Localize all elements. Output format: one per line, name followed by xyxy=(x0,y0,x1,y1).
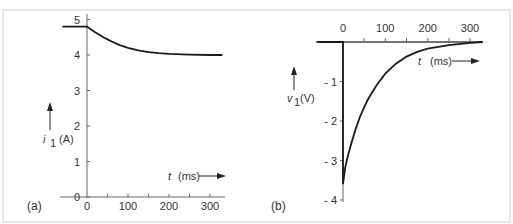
chart-a: 0 1 2 3 4 5 0 100 200 300 xyxy=(27,14,226,214)
chart-a-y-tick-2: 2 xyxy=(74,120,80,132)
chart-a-x-tick-100: 100 xyxy=(119,200,137,212)
chart-a-y-label-unit: (A) xyxy=(59,133,74,145)
chart-b-curve-v1 xyxy=(318,42,483,184)
chart-b-y-arrowhead-icon xyxy=(291,66,297,75)
chart-b-x-tick-100: 100 xyxy=(376,22,394,34)
chart-b-x-label-unit: (ms) xyxy=(430,55,452,67)
figure: 0 1 2 3 4 5 0 100 200 300 xyxy=(0,0,513,224)
chart-a-y-tick-5: 5 xyxy=(74,14,80,26)
chart-a-x-tick-200: 200 xyxy=(160,200,178,212)
chart-b-x-arrowhead-icon xyxy=(471,58,480,64)
chart-a-y-tick-4: 4 xyxy=(74,49,80,61)
chart-a-x-tick-300: 300 xyxy=(201,200,219,212)
chart-b-x-label-symbol: t xyxy=(418,55,422,67)
chart-b-y-label-symbol: v xyxy=(287,92,294,104)
chart-a-y-arrowhead-icon xyxy=(47,102,53,111)
chart-a-curve-i1 xyxy=(62,27,222,55)
chart-a-x-label-unit: (ms) xyxy=(178,170,200,182)
chart-b-x-tick-0: 0 xyxy=(340,22,346,34)
chart-b-y-tick-neg2: - 2 xyxy=(324,115,337,127)
chart-a-x-arrowhead-icon xyxy=(217,173,226,179)
chart-a-y-tick-3: 3 xyxy=(74,85,80,97)
chart-a-y-label-subscript: 1 xyxy=(50,137,56,149)
chart-a-y-label-symbol: i xyxy=(43,133,46,145)
chart-a-panel-label: (a) xyxy=(27,199,42,213)
chart-b-y-tick-neg4: - 4 xyxy=(324,194,337,206)
chart-a-y-tick-0: 0 xyxy=(74,191,80,203)
chart-a-x-label-symbol: t xyxy=(168,170,172,182)
chart-a-y-tick-1: 1 xyxy=(74,156,80,168)
chart-b-x-tick-200: 200 xyxy=(419,22,437,34)
chart-b: 0 100 200 300 - 1 - 2 - 3 - 4 v 1 (V) xyxy=(271,22,483,213)
chart-a-x-tick-0: 0 xyxy=(84,200,90,212)
chart-b-y-label-unit: (V) xyxy=(300,92,315,104)
chart-b-panel-label: (b) xyxy=(271,199,286,213)
figure-svg: 0 1 2 3 4 5 0 100 200 300 xyxy=(0,0,513,224)
chart-b-y-tick-neg3: - 3 xyxy=(324,155,337,167)
chart-b-x-tick-300: 300 xyxy=(461,22,479,34)
chart-b-y-tick-neg1: - 1 xyxy=(324,76,337,88)
